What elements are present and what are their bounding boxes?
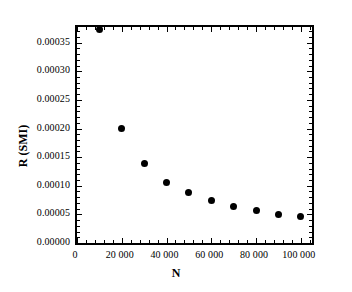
x-tick-minor	[229, 240, 230, 243]
y-axis-title: R (SMI)	[16, 125, 31, 167]
y-tick-label: 0.00010	[37, 178, 70, 189]
x-tick-major-top	[211, 27, 212, 32]
y-tick-minor	[77, 191, 80, 192]
plot-area	[77, 27, 312, 243]
y-tick-minor-right	[309, 226, 312, 227]
x-tick-minor	[184, 240, 185, 243]
y-tick-minor	[77, 232, 80, 233]
x-tick-major	[211, 238, 212, 243]
y-tick-minor	[77, 209, 80, 210]
x-tick-minor	[247, 240, 248, 243]
y-tick-major-right	[307, 129, 312, 130]
x-tick-minor-top	[292, 27, 293, 30]
data-point	[253, 207, 260, 214]
y-tick-label: 0.00025	[37, 92, 70, 103]
x-tick-minor	[149, 240, 150, 243]
y-tick-minor-right	[309, 117, 312, 118]
y-tick-minor	[77, 54, 80, 55]
x-tick-minor-top	[113, 27, 114, 30]
y-tick-minor	[77, 180, 80, 181]
data-point	[118, 125, 125, 132]
x-tick-minor-top	[140, 27, 141, 30]
x-tick-minor	[131, 240, 132, 243]
x-tick-minor	[274, 240, 275, 243]
y-tick-minor	[77, 174, 80, 175]
y-tick-minor-right	[309, 197, 312, 198]
data-point	[297, 213, 304, 220]
y-tick-minor-right	[309, 77, 312, 78]
x-tick-minor-top	[158, 27, 159, 30]
y-tick-minor	[77, 117, 80, 118]
x-tick-minor-top	[149, 27, 150, 30]
y-tick-minor-right	[309, 209, 312, 210]
y-tick-label: 0.00015	[37, 150, 70, 161]
x-tick-label: 20 000	[106, 249, 134, 260]
y-tick-minor	[77, 169, 80, 170]
x-tick-minor-top	[238, 27, 239, 30]
x-tick-minor	[265, 240, 266, 243]
x-tick-minor-top	[202, 27, 203, 30]
x-tick-major	[77, 238, 78, 243]
chart-figure: 0.000000.000050.000100.000150.000200.000…	[0, 0, 352, 292]
y-tick-minor	[77, 66, 80, 67]
y-tick-major	[77, 214, 82, 215]
x-tick-major-top	[122, 27, 123, 32]
x-tick-major	[256, 238, 257, 243]
y-tick-major	[77, 157, 82, 158]
y-tick-minor-right	[309, 134, 312, 135]
y-tick-minor-right	[309, 31, 312, 32]
x-tick-minor-top	[86, 27, 87, 30]
x-tick-label: 0	[72, 249, 77, 260]
y-tick-minor-right	[309, 237, 312, 238]
y-tick-minor	[77, 77, 80, 78]
y-tick-minor	[77, 203, 80, 204]
y-tick-label: 0.00000	[37, 236, 70, 247]
y-tick-minor	[77, 37, 80, 38]
y-tick-major-right	[307, 243, 312, 244]
x-tick-minor	[175, 240, 176, 243]
y-tick-major	[77, 129, 82, 130]
x-tick-minor-top	[175, 27, 176, 30]
y-tick-minor-right	[309, 203, 312, 204]
x-tick-major	[167, 238, 168, 243]
data-point	[275, 211, 282, 218]
x-tick-minor	[292, 240, 293, 243]
y-tick-minor	[77, 220, 80, 221]
y-tick-minor-right	[309, 140, 312, 141]
y-tick-minor	[77, 134, 80, 135]
y-tick-minor	[77, 60, 80, 61]
x-tick-minor-top	[310, 27, 311, 30]
y-tick-minor-right	[309, 232, 312, 233]
x-tick-minor	[113, 240, 114, 243]
y-tick-major-right	[307, 186, 312, 187]
y-tick-minor-right	[309, 106, 312, 107]
y-tick-minor-right	[309, 180, 312, 181]
y-tick-minor-right	[309, 54, 312, 55]
data-point	[208, 197, 215, 204]
x-tick-label: 40 000	[150, 249, 178, 260]
x-tick-minor-top	[184, 27, 185, 30]
x-tick-minor-top	[220, 27, 221, 30]
x-tick-label: 60 000	[195, 249, 223, 260]
y-tick-minor	[77, 88, 80, 89]
y-tick-minor-right	[309, 174, 312, 175]
x-tick-minor	[193, 240, 194, 243]
x-tick-minor-top	[247, 27, 248, 30]
x-tick-major-top	[167, 27, 168, 32]
y-tick-minor-right	[309, 60, 312, 61]
x-tick-minor-top	[274, 27, 275, 30]
data-point	[185, 189, 192, 196]
x-tick-major-top	[77, 27, 78, 32]
y-tick-minor	[77, 48, 80, 49]
y-tick-major-right	[307, 43, 312, 44]
data-point	[141, 160, 148, 167]
y-tick-minor	[77, 111, 80, 112]
y-tick-minor	[77, 140, 80, 141]
x-tick-minor	[86, 240, 87, 243]
x-tick-minor-top	[104, 27, 105, 30]
y-tick-minor-right	[309, 191, 312, 192]
y-tick-major-right	[307, 71, 312, 72]
y-tick-minor-right	[309, 146, 312, 147]
y-tick-minor-right	[309, 151, 312, 152]
x-tick-label: 80 000	[240, 249, 268, 260]
